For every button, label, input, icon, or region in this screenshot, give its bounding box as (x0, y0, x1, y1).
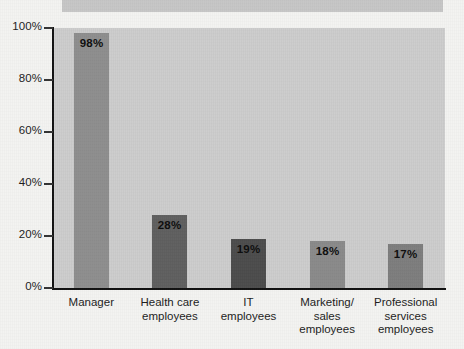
x-axis-category-label: Manager (52, 296, 131, 310)
y-axis-labels: 0%20%40%60%80%100% (0, 0, 42, 349)
y-axis-tick-label: 60% (0, 124, 42, 136)
y-axis-tick-label: 80% (0, 72, 42, 84)
y-axis-tick-label: 40% (0, 176, 42, 188)
top-banner-strip (62, 0, 443, 12)
y-axis-tick (44, 183, 53, 184)
chart-page: 0%20%40%60%80%100% 98%28%19%18%17% Manag… (0, 0, 464, 349)
bar-value-label: 18% (310, 245, 345, 257)
bar-value-label: 19% (231, 243, 266, 255)
y-axis-tick (44, 287, 53, 288)
bar: 28% (152, 215, 187, 288)
bar-value-label: 17% (388, 248, 423, 260)
bar: 98% (74, 33, 109, 288)
bar: 19% (231, 239, 266, 288)
x-axis-line (52, 288, 446, 290)
y-axis-tick (44, 131, 53, 132)
bar-value-label: 98% (74, 37, 109, 49)
bar: 17% (388, 244, 423, 288)
x-axis-category-label: Professional services employees (366, 296, 445, 337)
x-axis-category-label: IT employees (209, 296, 288, 323)
x-axis-category-label: Health care employees (131, 296, 210, 323)
y-axis-line (52, 27, 54, 289)
y-axis-tick (44, 79, 53, 80)
y-axis-tick (44, 27, 53, 28)
bar: 18% (310, 241, 345, 288)
y-axis-tick (44, 235, 53, 236)
y-axis-tick-label: 20% (0, 228, 42, 240)
y-axis-tick-label: 0% (0, 280, 42, 292)
bar-value-label: 28% (152, 219, 187, 231)
y-axis-tick-label: 100% (0, 20, 42, 32)
x-axis-category-label: Marketing/ sales employees (288, 296, 367, 337)
